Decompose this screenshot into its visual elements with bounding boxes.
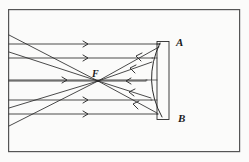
optics-figure: A B F xyxy=(0,0,249,162)
focal-point-F xyxy=(97,80,99,82)
incoming-ray-arrowheads xyxy=(62,41,88,117)
mirror-backing xyxy=(157,42,169,120)
reflected-ray-2 xyxy=(98,62,152,81)
figure-canvas: A B F xyxy=(0,0,249,162)
concave-mirror xyxy=(146,42,169,120)
reflected-ray-1 xyxy=(98,47,159,81)
incoming-parallel-rays xyxy=(9,44,160,114)
mirror-rungs xyxy=(146,44,160,114)
label-A: A xyxy=(175,36,183,48)
ray-diagram xyxy=(9,35,169,126)
arrowhead-left-5 xyxy=(133,101,139,109)
diverging-ray-5 xyxy=(9,81,98,126)
label-F: F xyxy=(91,68,99,79)
label-B: B xyxy=(177,112,185,124)
